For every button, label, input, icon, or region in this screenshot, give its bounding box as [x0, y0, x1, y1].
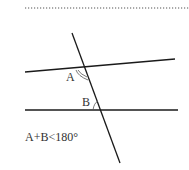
parallel-postulate-diagram: A B A+B<180°: [0, 0, 189, 170]
transversal-line: [72, 33, 120, 163]
angle-a-label: A: [66, 70, 75, 84]
angle-b-label: B: [82, 95, 90, 109]
upper-line: [25, 59, 175, 72]
angle-sum-condition: A+B<180°: [25, 130, 78, 144]
